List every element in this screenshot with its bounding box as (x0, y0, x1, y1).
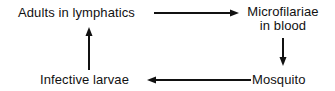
arrow-larvae-to-adults (86, 27, 93, 70)
arrow-microfilariae-to-mosquito (280, 38, 287, 66)
arrows-layer (0, 0, 335, 91)
arrow-mosquito-to-larvae (147, 77, 251, 84)
arrow-adults-to-microfilariae (154, 10, 239, 17)
